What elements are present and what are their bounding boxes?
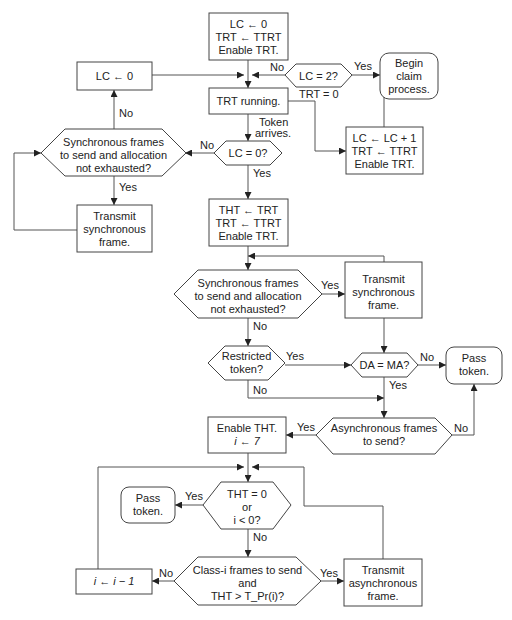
node-lc-eq-2-line-1: LC = 2? (299, 70, 338, 82)
node-lc-eq-0-line-1: LC = 0? (229, 147, 268, 159)
label-restricted-no: No (253, 384, 267, 396)
node-sync-mid-line-1: Synchronous frames (198, 277, 299, 289)
node-transmit-sync-right: Transmit synchronous frame. (345, 262, 422, 318)
node-lc-inc-line-1: LC ← LC + 1 (353, 132, 417, 144)
node-sync-left-line-1: Synchronous frames (63, 136, 164, 148)
node-lc-eq-2: LC = 2? (285, 64, 352, 87)
node-lc-inc-line-2: TRT ← TTRT (352, 145, 418, 157)
node-enable-tht-line-1: Enable THT. (217, 422, 277, 434)
label-syncmid-no: No (253, 320, 267, 332)
node-sync-left: Synchronous frames to send and allocatio… (41, 129, 186, 176)
label-classi-yes: Yes (320, 567, 338, 579)
label-syncmid-yes: Yes (321, 279, 339, 291)
node-tht-zero-line-3: i < 0? (233, 514, 260, 526)
node-dec-i-line-1: i ← i − 1 (94, 575, 135, 587)
node-da-ma-line-1: DA = MA? (360, 359, 410, 371)
node-restricted-line-2: token? (230, 363, 263, 375)
node-async-send-line-1: Asynchronous frames (331, 422, 438, 434)
node-pass-token-left-line-1: Pass (136, 492, 161, 504)
node-init-line-2: TRT ← TTRT (216, 31, 282, 43)
node-sync-mid-line-2: to send and allocation (194, 290, 301, 302)
node-tht-zero-line-1: THT = 0 (227, 488, 267, 500)
label-lc2-yes: Yes (354, 60, 372, 72)
node-begin-claim-line-1: Begin (395, 57, 423, 69)
node-transmit-sync-right-line-3: frame. (368, 299, 399, 311)
node-tht-assign-line-1: THT ← TRT (219, 204, 279, 216)
node-pass-token-right: Pass token. (446, 347, 502, 384)
node-restricted: Restricted token? (208, 346, 285, 380)
node-transmit-async-line-1: Transmit (362, 564, 404, 576)
node-da-ma: DA = MA? (351, 353, 418, 377)
node-begin-claim: Begin claim process. (380, 53, 438, 99)
label-async-yes: Yes (297, 421, 315, 433)
flowchart: LC ← 0 TRT ← TTRT Enable TRT. LC ← 0 LC … (0, 0, 512, 620)
label-dama-yes: Yes (389, 379, 407, 391)
node-class-i-line-2: and (238, 577, 256, 589)
node-init-line-3: Enable TRT. (218, 44, 278, 56)
node-restricted-line-1: Restricted (222, 350, 272, 362)
label-thtzero-no: No (253, 531, 267, 543)
node-dec-i: i ← i − 1 (76, 569, 152, 594)
node-transmit-async-line-2: asynchronous (349, 577, 418, 589)
node-tht-zero: THT = 0 or i < 0? (203, 482, 291, 529)
node-tht-assign: THT ← TRT TRT ← TTRT Enable TRT. (209, 199, 288, 246)
node-enable-tht-line-2: i ← 7 (234, 435, 261, 447)
node-lc-eq-0: LC = 0? (214, 141, 282, 165)
node-pass-token-right-line-2: token. (459, 365, 489, 377)
node-enable-tht: Enable THT. i ← 7 (208, 417, 286, 453)
node-begin-claim-line-3: process. (388, 83, 430, 95)
label-async-no: No (454, 422, 468, 434)
label-trt-zero: TRT = 0 (299, 88, 339, 100)
node-lc-inc: LC ← LC + 1 TRT ← TTRT Enable TRT. (346, 127, 423, 174)
label-lc0-yes: Yes (253, 167, 271, 179)
edge-restricted-no (248, 380, 384, 398)
label-thtzero-yes: Yes (185, 490, 203, 502)
node-begin-claim-line-2: claim (396, 70, 422, 82)
node-transmit-sync-right-line-1: Transmit (362, 273, 404, 285)
node-transmit-sync-left-line-1: Transmit (93, 210, 135, 222)
node-class-i-line-1: Class-i frames to send (193, 564, 302, 576)
node-async-send-line-2: to send? (363, 435, 405, 447)
label-token-arrives-2: arrives. (255, 127, 291, 139)
node-trt-running-line-1: TRT running. (217, 95, 281, 107)
label-restricted-yes: Yes (286, 350, 304, 362)
node-transmit-sync-left-line-2: synchronous (83, 223, 146, 235)
node-init-line-1: LC ← 0 (230, 18, 267, 30)
node-init: LC ← 0 TRT ← TTRT Enable TRT. (209, 13, 288, 60)
label-syncleft-yes: Yes (119, 181, 137, 193)
label-syncleft-no: No (119, 107, 133, 119)
node-transmit-async: Transmit asynchronous frame. (344, 559, 422, 606)
node-sync-left-line-2: to send and allocation (60, 149, 167, 161)
label-classi-no: No (159, 567, 173, 579)
node-transmit-async-line-3: frame. (367, 590, 398, 602)
node-class-i: Class-i frames to send and THT > T_Pr(i)… (174, 557, 321, 605)
node-pass-token-left-line-2: token. (133, 505, 163, 517)
node-transmit-sync-left-line-3: frame. (99, 236, 130, 248)
node-sync-left-line-3: not exhausted? (76, 162, 151, 174)
node-sync-mid-line-3: not exhausted? (210, 303, 285, 315)
label-lc0-no: No (200, 139, 214, 151)
node-transmit-sync-left: Transmit synchronous frame. (77, 205, 152, 252)
node-tht-assign-line-3: Enable TRT. (218, 230, 278, 242)
label-dama-no: No (420, 351, 434, 363)
node-sync-mid: Synchronous frames to send and allocatio… (174, 270, 322, 318)
edge-transmitsyncright-loop (248, 256, 384, 262)
node-reset-lc: LC ← 0 (77, 62, 152, 90)
node-transmit-sync-right-line-2: synchronous (352, 286, 415, 298)
node-tht-assign-line-2: TRT ← TTRT (216, 217, 282, 229)
node-trt-running: TRT running. (209, 88, 288, 114)
edge-trt-zero (288, 101, 346, 151)
node-reset-lc-line-1: LC ← 0 (96, 70, 133, 82)
node-tht-zero-line-2: or (242, 501, 252, 513)
node-class-i-line-3: THT > T_Pr(i)? (211, 590, 284, 602)
node-pass-token-right-line-1: Pass (462, 352, 487, 364)
node-pass-token-left: Pass token. (121, 487, 175, 523)
node-lc-inc-line-3: Enable TRT. (354, 158, 414, 170)
node-async-send: Asynchronous frames to send? (316, 418, 452, 454)
label-lc2-no: No (270, 61, 284, 73)
